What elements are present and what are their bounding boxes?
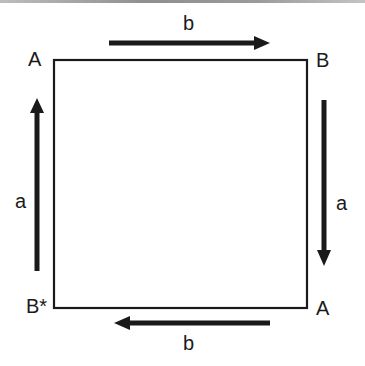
vertex-label-bottom-left: B* (26, 296, 47, 316)
edge-label-right: a (336, 193, 347, 213)
square-diagram (0, 0, 365, 366)
edge-label-left: a (15, 191, 26, 211)
edge-label-top: b (183, 13, 194, 33)
square-outline (54, 60, 307, 308)
right-arrow-down-icon (317, 100, 331, 266)
edge-label-bottom: b (183, 333, 194, 353)
vertex-label-top-right: B (316, 50, 329, 70)
top-arrow-right-icon (109, 36, 270, 50)
vertex-label-top-left: A (28, 49, 41, 69)
bottom-arrow-left-icon (114, 316, 270, 330)
left-arrow-up-icon (30, 98, 44, 271)
vertex-label-bottom-right: A (316, 298, 329, 318)
